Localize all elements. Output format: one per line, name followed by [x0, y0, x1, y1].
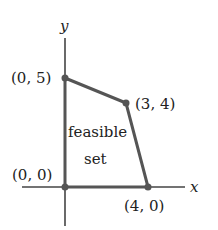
region-label-line1: feasible	[68, 123, 127, 141]
vertex-0-0	[62, 184, 69, 191]
vertex-4-0	[145, 184, 152, 191]
vertex-label-0-5: (0, 5)	[11, 69, 51, 87]
x-axis-label: x	[190, 178, 199, 196]
vertex-label-4-0: (4, 0)	[124, 197, 164, 215]
vertex-3-4	[123, 100, 130, 107]
region-label-line2: set	[84, 150, 107, 168]
feasible-set-diagram: y x (0, 5) (3, 4) (0, 0) (4, 0) feasible…	[0, 0, 218, 230]
vertex-0-5	[62, 75, 69, 82]
vertex-label-3-4: (3, 4)	[135, 95, 175, 113]
y-axis-label: y	[59, 17, 69, 35]
vertex-label-0-0: (0, 0)	[12, 166, 52, 184]
